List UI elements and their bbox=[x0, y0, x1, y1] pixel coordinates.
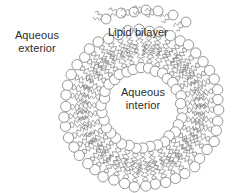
lipid-head-group bbox=[212, 116, 222, 126]
lipid-tail bbox=[118, 39, 124, 59]
lipid-head-group bbox=[61, 101, 71, 111]
liposome-diagram: Aqueous exterior Lipid bilayer Aqueous i… bbox=[0, 0, 234, 193]
lipid-head-group bbox=[84, 44, 94, 54]
free-lipid-tail bbox=[95, 11, 103, 16]
free-lipid-tail bbox=[162, 18, 170, 23]
label-aqueous-interior: Aqueous interior bbox=[112, 86, 174, 112]
lipid-head-group bbox=[63, 133, 73, 143]
lipid-head-group bbox=[60, 121, 70, 131]
lipid-head-group bbox=[190, 162, 200, 172]
label-aqueous-exterior: Aqueous exterior bbox=[6, 29, 68, 55]
lipid-head-group bbox=[59, 112, 69, 122]
label-aqueous-exterior-line2: exterior bbox=[6, 42, 68, 55]
lipid-tail bbox=[79, 139, 99, 147]
label-lipid-bilayer-line1: Lipid bilayer bbox=[108, 26, 168, 39]
free-lipid-tail bbox=[108, 8, 116, 12]
label-aqueous-interior-line2: interior bbox=[112, 99, 174, 112]
lipid-head-group bbox=[175, 98, 185, 108]
lipid-head-group bbox=[98, 172, 108, 182]
lipid-head-group bbox=[141, 181, 151, 191]
lipid-tail bbox=[81, 95, 100, 100]
free-lipid-tail bbox=[174, 22, 182, 26]
lipid-head-group bbox=[61, 90, 71, 100]
lipid-head-group bbox=[150, 179, 160, 189]
lipid-head-group bbox=[213, 105, 223, 115]
free-lipid-head-group bbox=[181, 17, 191, 27]
free-lipid-tail bbox=[176, 25, 183, 31]
lipid-head-group bbox=[212, 85, 222, 95]
lipid-head-group bbox=[83, 158, 93, 168]
lipid-head-group bbox=[119, 178, 129, 188]
lipid-head-group bbox=[170, 173, 180, 183]
lipid-head-group bbox=[69, 142, 79, 152]
label-aqueous-exterior-line1: Aqueous bbox=[6, 29, 68, 42]
lipid-tail bbox=[149, 36, 153, 56]
label-lipid-bilayer: Lipid bilayer bbox=[108, 26, 168, 39]
lipid-head-group bbox=[213, 94, 223, 104]
lipid-head-group bbox=[191, 48, 201, 58]
lipid-head-group bbox=[109, 175, 119, 185]
lipid-head-group bbox=[129, 182, 139, 192]
label-aqueous-interior-line1: Aqueous bbox=[112, 86, 174, 99]
lipid-head-group bbox=[211, 125, 221, 135]
lipid-head-group bbox=[62, 80, 72, 90]
lipid-head-group bbox=[161, 177, 171, 187]
free-lipid-tail bbox=[160, 14, 168, 17]
free-lipid-tail bbox=[93, 17, 101, 20]
lipid-head-group bbox=[209, 74, 219, 84]
